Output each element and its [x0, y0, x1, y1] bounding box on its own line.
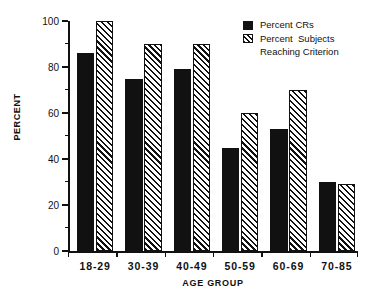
x-category-label: 50-59	[224, 260, 255, 272]
bar	[319, 182, 337, 251]
bar-group	[174, 21, 211, 251]
y-tick-label: 40	[29, 154, 59, 165]
x-category-label: 70-85	[321, 260, 352, 272]
x-tick	[165, 251, 166, 257]
y-tick-label: 0	[29, 246, 59, 257]
y-tick-minor	[65, 181, 69, 182]
x-tick	[213, 251, 214, 257]
y-tick-major	[62, 204, 68, 205]
y-tick-minor	[65, 135, 69, 136]
y-tick-major	[62, 20, 68, 21]
x-category-label: 18-29	[79, 260, 110, 272]
legend-swatch-hatched-square	[243, 34, 253, 43]
y-tick-label: 100	[29, 16, 59, 27]
legend-label-percent-subjects: Percent Subjects	[260, 33, 334, 46]
legend-entry-percent-subjects: Percent Subjects	[243, 33, 339, 46]
x-category-label: 30-39	[128, 260, 159, 272]
legend: Percent CRs Percent Subjects Reaching Cr…	[243, 19, 339, 60]
legend-entry-percent-crs: Percent CRs	[243, 19, 339, 32]
y-tick-minor	[65, 43, 69, 44]
y-tick-minor	[65, 227, 69, 228]
bar	[193, 44, 211, 251]
y-tick-major	[62, 66, 68, 67]
y-tick-major	[62, 158, 68, 159]
x-tick	[261, 251, 262, 257]
y-tick-label: 20	[29, 200, 59, 211]
bar	[222, 148, 240, 252]
y-tick-label: 80	[29, 62, 59, 73]
bar	[96, 21, 114, 251]
y-tick-label: 60	[29, 108, 59, 119]
legend-swatch-solid-black-square	[243, 21, 253, 30]
bar-chart: PERCENT 020406080100 18-2930-3940-4950-5…	[0, 0, 380, 304]
x-tick	[310, 251, 311, 257]
y-axis-line	[68, 21, 70, 252]
legend-label-percent-crs: Percent CRs	[260, 19, 314, 32]
bar	[77, 53, 95, 251]
y-axis-title: PERCENT	[12, 82, 22, 152]
x-tick	[357, 251, 358, 257]
x-category-label: 60-69	[273, 260, 304, 272]
bar	[174, 69, 192, 251]
x-axis-title: AGE GROUP	[68, 278, 358, 288]
bar	[241, 113, 259, 251]
legend-label-reaching-criterion: Reaching Criterion	[260, 46, 339, 59]
bar	[144, 44, 162, 251]
bar	[289, 90, 307, 251]
bar	[125, 79, 143, 252]
bar	[338, 184, 356, 251]
bar-group	[77, 21, 114, 251]
x-tick	[116, 251, 117, 257]
x-category-label: 40-49	[176, 260, 207, 272]
bar-group	[125, 21, 162, 251]
legend-entry-percent-subjects-continued: Reaching Criterion	[243, 46, 339, 59]
x-tick	[68, 251, 69, 257]
y-tick-minor	[65, 89, 69, 90]
y-tick-major	[62, 112, 68, 113]
bar	[270, 129, 288, 251]
